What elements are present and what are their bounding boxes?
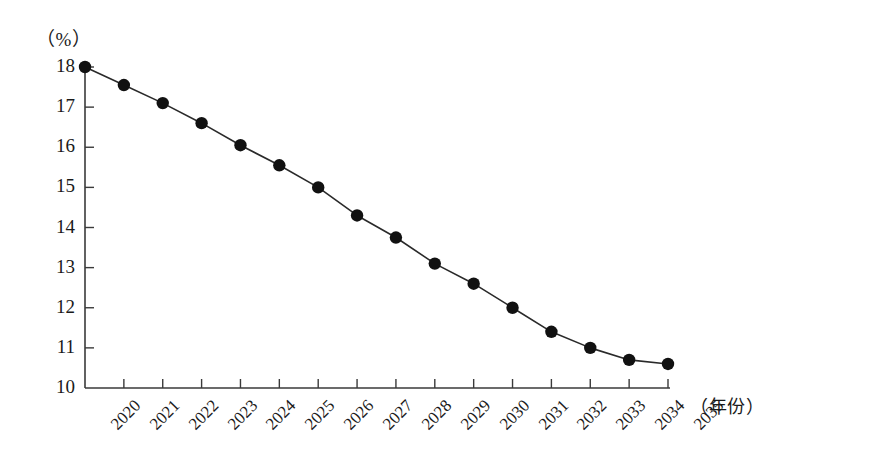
data-point-marker — [234, 139, 246, 151]
data-point-marker — [273, 159, 285, 171]
y-axis-tick-label: 17 — [39, 95, 75, 117]
y-axis-tick-label: 13 — [39, 256, 75, 278]
data-point-marker — [195, 117, 207, 129]
y-axis-tick-label: 16 — [39, 135, 75, 157]
data-point-marker — [390, 231, 402, 243]
data-point-marker — [429, 257, 441, 269]
y-axis-tick-label: 10 — [39, 376, 75, 398]
data-point-marker — [584, 342, 596, 354]
data-point-marker — [662, 358, 674, 370]
y-axis-tick-label: 12 — [39, 296, 75, 318]
data-point-marker — [467, 277, 479, 289]
data-point-marker — [312, 181, 324, 193]
data-point-marker — [623, 354, 635, 366]
chart-page: （%） （年份） 101112131415161718 202020212022… — [0, 0, 882, 471]
y-axis-tick-label: 11 — [39, 336, 75, 358]
y-axis-tick-label: 18 — [39, 55, 75, 77]
y-axis-tick-label: 15 — [39, 175, 75, 197]
line-chart: （%） （年份） 101112131415161718 202020212022… — [0, 0, 882, 471]
data-point-marker — [545, 326, 557, 338]
data-point-markers — [79, 61, 674, 370]
x-axis-ticks — [124, 379, 668, 388]
data-point-marker — [506, 302, 518, 314]
data-point-marker — [79, 61, 91, 73]
data-line — [85, 67, 668, 364]
y-axis-tick-label: 14 — [39, 216, 75, 238]
data-point-marker — [118, 79, 130, 91]
data-point-marker — [351, 209, 363, 221]
y-axis-ticks — [85, 67, 94, 348]
data-point-marker — [157, 97, 169, 109]
